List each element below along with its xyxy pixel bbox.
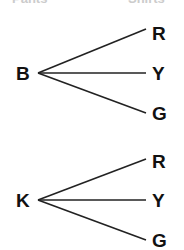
tree-1-branch-r: R [152, 24, 166, 43]
tree-2-branch-y: Y [152, 191, 165, 210]
tree-1-root: B [16, 64, 30, 83]
tree-1-branch-y: Y [152, 64, 165, 83]
tree-2-branch-g: G [152, 231, 167, 250]
tree-2-root: K [16, 191, 30, 210]
tree-2-branch-r: R [152, 152, 166, 171]
tree-1-branch-g: G [152, 104, 167, 123]
